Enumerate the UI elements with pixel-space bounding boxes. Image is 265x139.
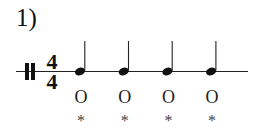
beat-marker: *	[121, 113, 129, 129]
beat-labels-row: ****	[0, 0, 265, 20]
beat-marker: *	[208, 113, 216, 129]
beat-marker: *	[77, 113, 85, 129]
count-label: O	[118, 88, 131, 106]
count-label: O	[162, 88, 175, 106]
count-label: O	[206, 88, 219, 106]
beat-marker: *	[164, 113, 172, 129]
rhythm-staff: 4 4	[0, 0, 265, 139]
count-label: O	[75, 88, 88, 106]
time-signature-denominator: 4	[47, 69, 58, 94]
